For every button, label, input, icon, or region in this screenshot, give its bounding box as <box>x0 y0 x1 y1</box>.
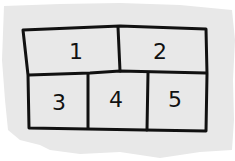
cell-1-label: 1 <box>69 41 83 63</box>
cell-4-label: 4 <box>109 89 123 111</box>
cell-2-label: 2 <box>153 41 167 63</box>
paper-scrap <box>0 0 235 161</box>
cell-3-label: 3 <box>52 92 66 114</box>
cell-5-label: 5 <box>168 89 182 111</box>
